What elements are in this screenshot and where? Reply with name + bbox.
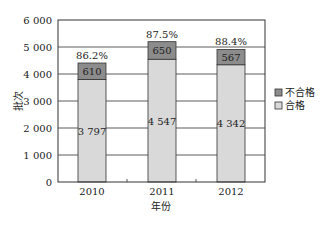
y-tick-label: 4 000 [23,69,52,80]
x-tick-label: 2011 [149,186,174,197]
legend-swatch [275,89,282,96]
bar-value-label: 3 797 [78,126,107,137]
y-tick-label: 0 [46,177,52,188]
y-tick-label: 6 000 [23,15,52,26]
legend-label: 合格 [285,99,305,111]
stacked-bar-chart: 01 0002 0003 0004 0005 0006 000 3 797610… [0,0,328,225]
bar-value-label: 4 547 [148,116,177,127]
pass-rate-label: 87.5% [146,29,178,40]
y-tick-label: 5 000 [23,42,52,53]
x-tick-label: 2010 [79,186,104,197]
pass-rate-label: 86.2% [76,50,108,61]
y-axis-label: 批次 [12,91,24,111]
bars: 3 79761086.2%4 54765087.5%4 34256788.4% [76,29,247,182]
y-axis-ticks: 01 0002 0003 0004 0005 0006 000 [23,15,52,188]
legend-label: 不合格 [285,86,315,98]
bar-value-label: 610 [82,66,101,77]
y-tick-label: 1 000 [23,150,52,161]
bar-value-label: 650 [152,45,171,56]
y-tick-label: 3 000 [23,96,52,107]
legend-swatch [275,102,282,109]
bar-value-label: 567 [221,52,240,63]
x-axis-label: 年份 [151,200,171,212]
y-tick-label: 2 000 [23,123,52,134]
pass-rate-label: 88.4% [215,36,247,47]
x-tick-label: 2012 [218,186,243,197]
bar-value-label: 4 342 [217,118,246,129]
legend: 不合格合格 [275,86,315,111]
